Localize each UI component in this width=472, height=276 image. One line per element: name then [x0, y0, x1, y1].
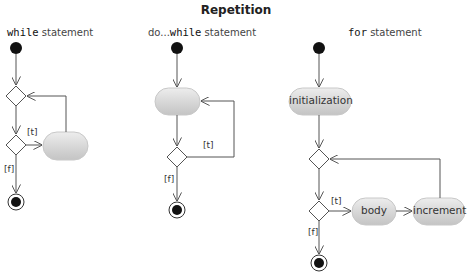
for-decision-diamond: [309, 201, 329, 221]
while-decision-diamond: [6, 135, 26, 155]
for-guard-false: [f]: [308, 227, 318, 237]
while-initial-node: [10, 42, 22, 54]
for-guard-true: [t]: [331, 196, 342, 206]
for-initial-node: [313, 42, 325, 54]
do-while-guard-false: [f]: [164, 174, 174, 184]
while-diagram: [6, 42, 88, 210]
while-guard-true: [t]: [27, 127, 38, 137]
for-merge-diamond: [309, 149, 329, 169]
do-while-initial-node: [171, 42, 183, 54]
while-merge-diamond: [6, 86, 26, 106]
do-while-diagram: [155, 42, 234, 218]
while-guard-false: [f]: [4, 164, 14, 174]
activity-diagrams-canvas: [0, 0, 472, 276]
for-body-label: body: [352, 204, 396, 216]
do-while-guard-true: [t]: [203, 140, 214, 150]
for-increment-label: increment: [413, 204, 465, 216]
for-initialization-label: initialization: [289, 94, 351, 106]
while-body-activity: [43, 132, 88, 160]
do-while-decision-diamond: [167, 147, 187, 167]
do-while-body-activity: [155, 88, 200, 115]
